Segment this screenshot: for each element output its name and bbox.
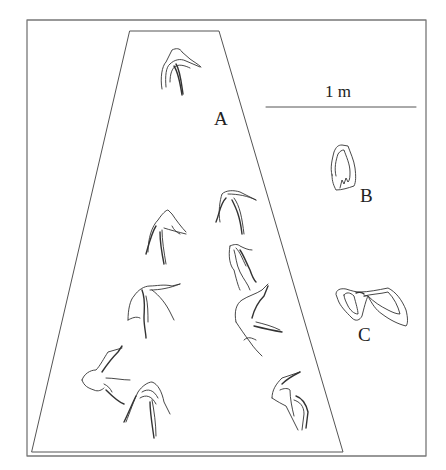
outer-frame (27, 20, 426, 456)
footprint-8 (124, 382, 170, 438)
footprint-4 (229, 245, 256, 291)
label-c: C (358, 325, 371, 344)
trapezoid-area-a (32, 31, 343, 452)
label-b: B (360, 186, 373, 205)
footprint-3 (146, 210, 186, 264)
diagram-canvas (0, 0, 446, 470)
footprint-5 (128, 284, 180, 338)
footprint-2 (216, 191, 256, 234)
footprint-c (336, 288, 408, 326)
footprint-9 (272, 372, 308, 430)
footprint-7 (82, 346, 130, 404)
footprint-b (331, 145, 355, 190)
footprint-1 (161, 49, 201, 95)
scale-bar-label: 1 m (325, 83, 351, 100)
label-a: A (214, 109, 228, 128)
footprint-6 (235, 284, 282, 356)
